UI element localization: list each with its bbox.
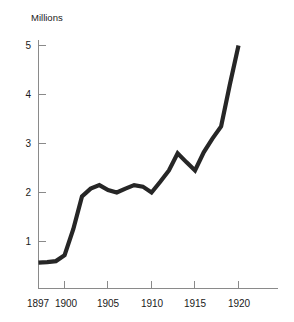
y-tick-label-1: 1 [25, 236, 31, 247]
y-axis-title: Millions [31, 12, 63, 23]
x-tick-label-1920: 1920 [228, 298, 251, 309]
y-tick-label-3: 3 [25, 138, 31, 149]
y-tick-label-2: 2 [25, 187, 31, 198]
chart-canvas: Millions 5 4 3 2 1 1897 1900 1905 1910 1… [0, 0, 294, 322]
data-series-line [39, 46, 239, 263]
y-tick-label-5: 5 [25, 40, 31, 51]
y-tick-label-4: 4 [25, 89, 31, 100]
x-tick-label-1900: 1900 [55, 298, 78, 309]
x-tick-label-1905: 1905 [97, 298, 120, 309]
line-chart: Millions 5 4 3 2 1 1897 1900 1905 1910 1… [0, 0, 294, 322]
x-tick-label-1897: 1897 [27, 298, 50, 309]
x-tick-label-1910: 1910 [141, 298, 164, 309]
x-tick-label-1915: 1915 [184, 298, 207, 309]
